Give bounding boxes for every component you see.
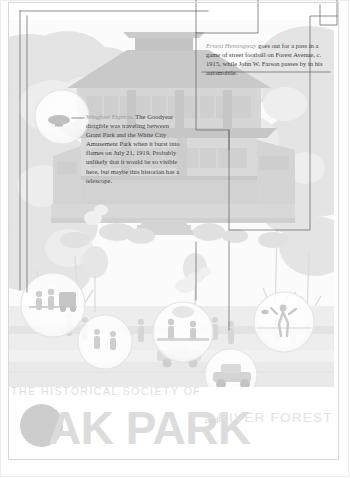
figure bbox=[138, 319, 144, 342]
house-left-wing bbox=[53, 146, 81, 204]
street-magnifier bbox=[153, 302, 213, 362]
page-canvas: Ernest Hemingway goes out for a pass in … bbox=[0, 0, 350, 478]
caption-hemingway: Ernest Hemingway goes out for a pass in … bbox=[206, 41, 324, 77]
caption-wingfoot-lede: Wingfoot Express. bbox=[86, 113, 134, 120]
caption-wingfoot-body: The Goodyear dirigible was traveling bet… bbox=[86, 113, 180, 184]
figure bbox=[228, 321, 234, 344]
house-roof-monitor-cap bbox=[123, 32, 205, 38]
street bbox=[9, 362, 334, 387]
logo-and: and bbox=[205, 415, 219, 425]
caption-wingfoot: Wingfoot Express. The Goodyear dirigible… bbox=[86, 112, 180, 185]
house-right-wing-window bbox=[259, 156, 289, 170]
house-right-wing bbox=[257, 140, 295, 204]
house-roof-monitor bbox=[135, 38, 193, 51]
house-left-wing-window bbox=[57, 162, 77, 174]
football-magnifier bbox=[254, 292, 314, 352]
logo-river-forest: RIVER FOREST bbox=[218, 410, 333, 425]
logo-line-historical-society: THE HISTORICAL SOCIETY OF bbox=[11, 385, 201, 397]
dirigible-magnifier bbox=[35, 90, 89, 144]
organization-logo: THE HISTORICAL SOCIETY OF AK PARK and RI… bbox=[9, 385, 334, 457]
caption-hemingway-lede: Ernest Hemingway bbox=[206, 42, 256, 49]
balcony-magnifier bbox=[21, 273, 85, 337]
football bbox=[261, 310, 268, 314]
porch-magnifier bbox=[78, 315, 132, 369]
